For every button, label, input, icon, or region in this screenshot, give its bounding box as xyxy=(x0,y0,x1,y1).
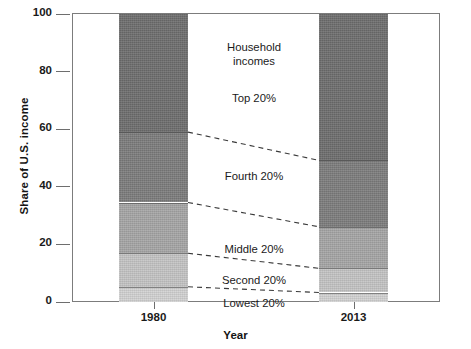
y-tick-60 xyxy=(56,129,70,130)
y-tick-80 xyxy=(56,71,70,72)
segment-1980-top xyxy=(119,14,188,133)
annotation-lowest-20: Lowest 20% xyxy=(204,297,304,311)
x-tick-label-2013: 2013 xyxy=(309,311,399,323)
segment-1980-middle xyxy=(119,203,188,254)
annotation-second-20: Second 20% xyxy=(204,274,304,288)
annotation-household-line2: incomes xyxy=(204,55,304,69)
y-tick-40 xyxy=(56,186,70,187)
annotation-middle-20: Middle 20% xyxy=(204,243,304,257)
annotation-household-incomes: Household incomes xyxy=(204,41,304,68)
segment-1980-second xyxy=(119,253,188,287)
bar-1980[interactable] xyxy=(119,14,188,303)
y-tick-label-0: 0 xyxy=(0,295,52,307)
y-tick-100 xyxy=(56,14,70,15)
segment-1980-lowest xyxy=(119,287,188,302)
y-tick-0 xyxy=(56,302,70,303)
segment-2013-middle xyxy=(319,227,388,269)
y-tick-label-100: 100 xyxy=(0,7,52,19)
x-axis-title: Year xyxy=(0,329,471,341)
segment-1980-fourth xyxy=(119,132,188,202)
annotation-household-line1: Household xyxy=(204,41,304,55)
y-tick-20 xyxy=(56,244,70,245)
x-tick-label-1980: 1980 xyxy=(109,311,199,323)
x-tick-2013 xyxy=(354,302,355,309)
annotation-fourth-20: Fourth 20% xyxy=(204,170,304,184)
segment-2013-second xyxy=(319,268,388,292)
bar-2013[interactable] xyxy=(319,14,388,303)
segment-2013-lowest xyxy=(319,293,388,303)
y-axis-title: Share of U.S. income xyxy=(18,46,30,266)
stacked-bar-chart: 100 80 60 40 20 0 Share of U.S. income H… xyxy=(0,0,471,349)
annotation-top-20: Top 20% xyxy=(204,92,304,106)
x-tick-1980 xyxy=(154,302,155,309)
segment-2013-top xyxy=(319,14,388,161)
segment-2013-fourth xyxy=(319,160,388,226)
